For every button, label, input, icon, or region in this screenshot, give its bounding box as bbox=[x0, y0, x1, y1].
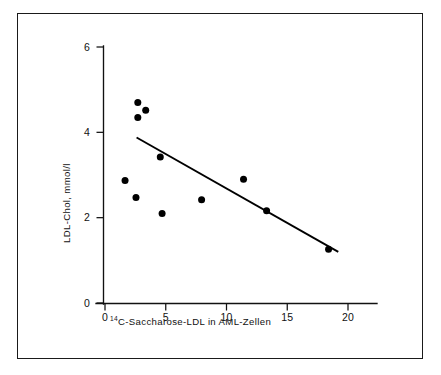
x-axis-title-main: C-Saccharose-LDL in AML-Zellen bbox=[118, 316, 271, 327]
data-point bbox=[142, 107, 149, 114]
y-tick-label: 2 bbox=[84, 211, 90, 223]
y-tick-label: 6 bbox=[84, 41, 90, 53]
data-point bbox=[263, 207, 270, 214]
y-tick-label: 0 bbox=[84, 297, 90, 309]
figure-root: 0246 05101520 LDL-Chol, mmol/l 14C-Sacch… bbox=[0, 0, 441, 375]
data-point bbox=[240, 176, 247, 183]
scatter-plot-svg: 0246 05101520 LDL-Chol, mmol/l 14C-Sacch… bbox=[0, 0, 441, 375]
y-tick-label: 4 bbox=[84, 126, 90, 138]
data-point bbox=[134, 114, 141, 121]
x-axis-title-superscript: 14 bbox=[110, 315, 118, 322]
data-point bbox=[122, 177, 129, 184]
x-tick-label: 0 bbox=[102, 311, 108, 323]
axes-group bbox=[96, 46, 377, 304]
data-point bbox=[159, 210, 166, 217]
data-point bbox=[325, 246, 332, 253]
data-point bbox=[132, 194, 139, 201]
regression-line-group bbox=[137, 137, 339, 251]
x-axis-title: 14C-Saccharose-LDL in AML-Zellen bbox=[110, 315, 271, 327]
y-axis-ticks: 0246 bbox=[84, 41, 104, 309]
data-point bbox=[198, 196, 205, 203]
x-tick-label: 15 bbox=[281, 311, 293, 323]
data-point bbox=[157, 154, 164, 161]
data-point bbox=[134, 99, 141, 106]
x-tick-label: 20 bbox=[342, 311, 354, 323]
y-axis-title: LDL-Chol, mmol/l bbox=[61, 163, 72, 243]
regression-line bbox=[137, 137, 339, 251]
